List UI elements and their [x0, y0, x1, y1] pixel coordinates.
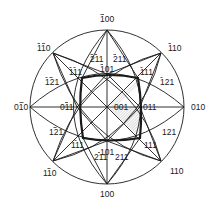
label-lr-121: 121: [162, 127, 176, 137]
label-top-100: 100: [100, 14, 114, 24]
label-ul-211: 211: [90, 54, 104, 64]
label-ll-111: 111: [71, 140, 84, 150]
pole-labels: 100 100 010 010 110 110 110 110 111 111 …: [14, 14, 205, 199]
label-ul-121: 121: [45, 77, 59, 87]
label-lr-111: 111: [144, 140, 157, 150]
label-ur-121: 121: [160, 77, 174, 87]
label-ur-211: 211: [113, 54, 127, 64]
label-lr-110: 110: [170, 166, 184, 176]
label-ul-111: 111: [69, 67, 82, 77]
label-upper-101: 101: [100, 64, 114, 74]
label-ul-110: 110: [37, 43, 51, 53]
label-ll-110: 110: [43, 168, 57, 178]
label-left-010: 010: [14, 102, 28, 112]
label-bottom-100: 100: [100, 189, 114, 199]
label-ll-121: 121: [49, 127, 63, 137]
label-lr-211: 211: [115, 152, 129, 162]
label-left-011: 011: [60, 102, 74, 112]
label-center-001: 001: [114, 102, 128, 112]
label-ur-111: 111: [140, 67, 153, 77]
label-right-010: 010: [191, 102, 205, 112]
label-right-011: 011: [143, 102, 157, 112]
stereographic-projection: 100 100 010 010 110 110 110 110 111 111 …: [0, 0, 215, 212]
label-lower-101: 101: [100, 147, 114, 157]
label-ur-110: 110: [168, 43, 182, 53]
